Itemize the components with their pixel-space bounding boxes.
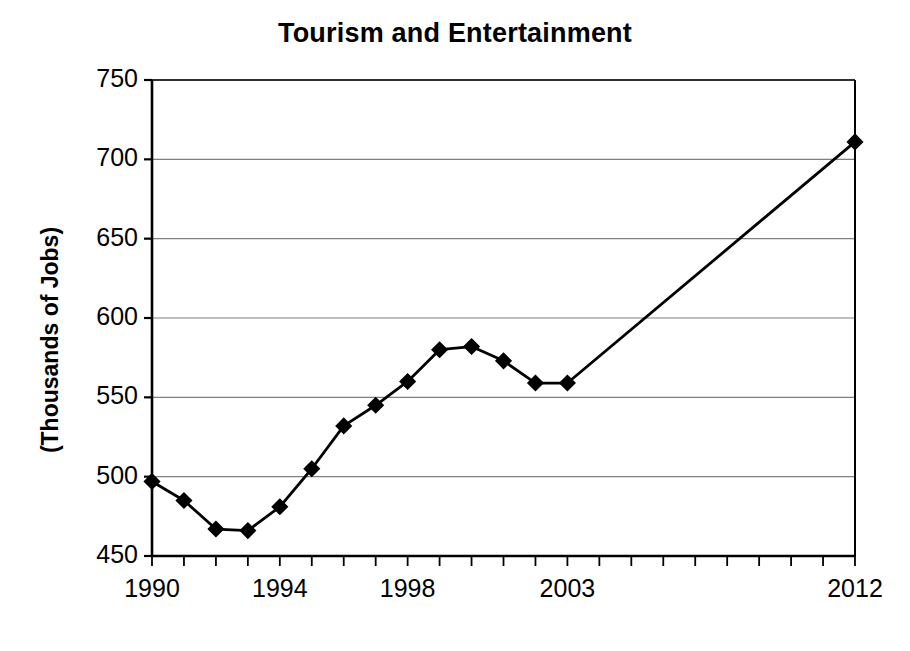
y-tick-label: 450 (76, 540, 138, 569)
y-tick-label: 750 (76, 64, 138, 93)
chart-figure: Tourism and Entertainment (Thousands of … (0, 0, 910, 651)
x-tick-label: 1990 (107, 574, 197, 603)
y-tick-label: 500 (76, 461, 138, 490)
data-series-line (152, 142, 855, 531)
y-tick-label: 700 (76, 143, 138, 172)
y-tick-label: 550 (76, 381, 138, 410)
x-tick-label: 2012 (810, 574, 900, 603)
data-point-marker (464, 339, 479, 354)
x-tick-label: 1994 (235, 574, 325, 603)
x-tick-label: 1998 (363, 574, 453, 603)
y-tick-label: 600 (76, 302, 138, 331)
y-tick-label: 650 (76, 223, 138, 252)
x-tick-label: 2003 (522, 574, 612, 603)
